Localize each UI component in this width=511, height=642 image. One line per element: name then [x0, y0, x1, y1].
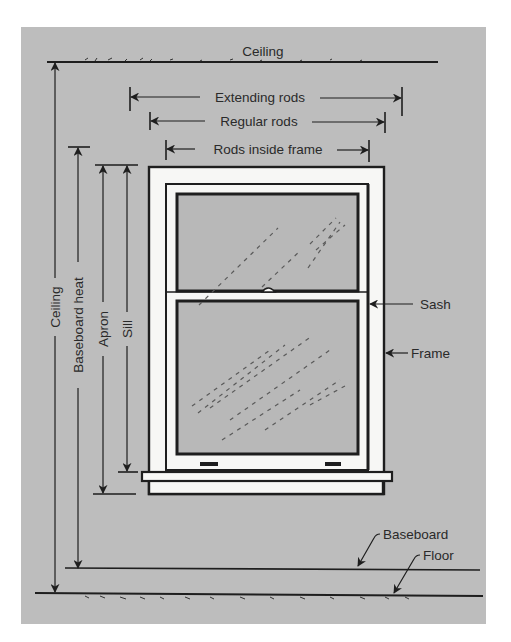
floor-label: Floor: [423, 548, 454, 563]
rods-inside-frame-label: Rods inside frame: [214, 142, 323, 157]
window-apron: [149, 480, 383, 494]
sill-label: Sill: [120, 320, 135, 338]
window: [142, 167, 392, 494]
regular-rods-label: Regular rods: [220, 114, 298, 129]
extending-rods-label: Extending rods: [215, 90, 305, 105]
ceiling-label: Ceiling: [242, 44, 283, 59]
sash-label: Sash: [420, 297, 451, 312]
window-measurement-diagram: Ceiling Extending rods Regular rods Rods…: [0, 0, 511, 642]
baseboard-heat-label: Baseboard heat: [71, 277, 86, 373]
window-sill: [142, 472, 392, 481]
sash-lift-right: [325, 462, 341, 466]
sash-lift-left: [200, 462, 218, 466]
ceiling-vertical-label: Ceiling: [48, 286, 63, 327]
apron-label: Apron: [96, 311, 111, 347]
lower-glass-pane: [177, 301, 358, 454]
frame-label: Frame: [411, 346, 450, 361]
baseboard-label: Baseboard: [383, 527, 448, 542]
upper-glass-pane: [177, 194, 358, 291]
